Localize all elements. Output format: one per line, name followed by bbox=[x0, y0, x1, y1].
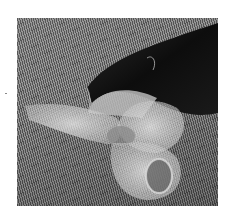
bow-lower-loop bbox=[111, 142, 181, 200]
photo bbox=[17, 18, 218, 206]
sculpture-illustration bbox=[17, 18, 218, 206]
edge-mark bbox=[5, 93, 7, 94]
